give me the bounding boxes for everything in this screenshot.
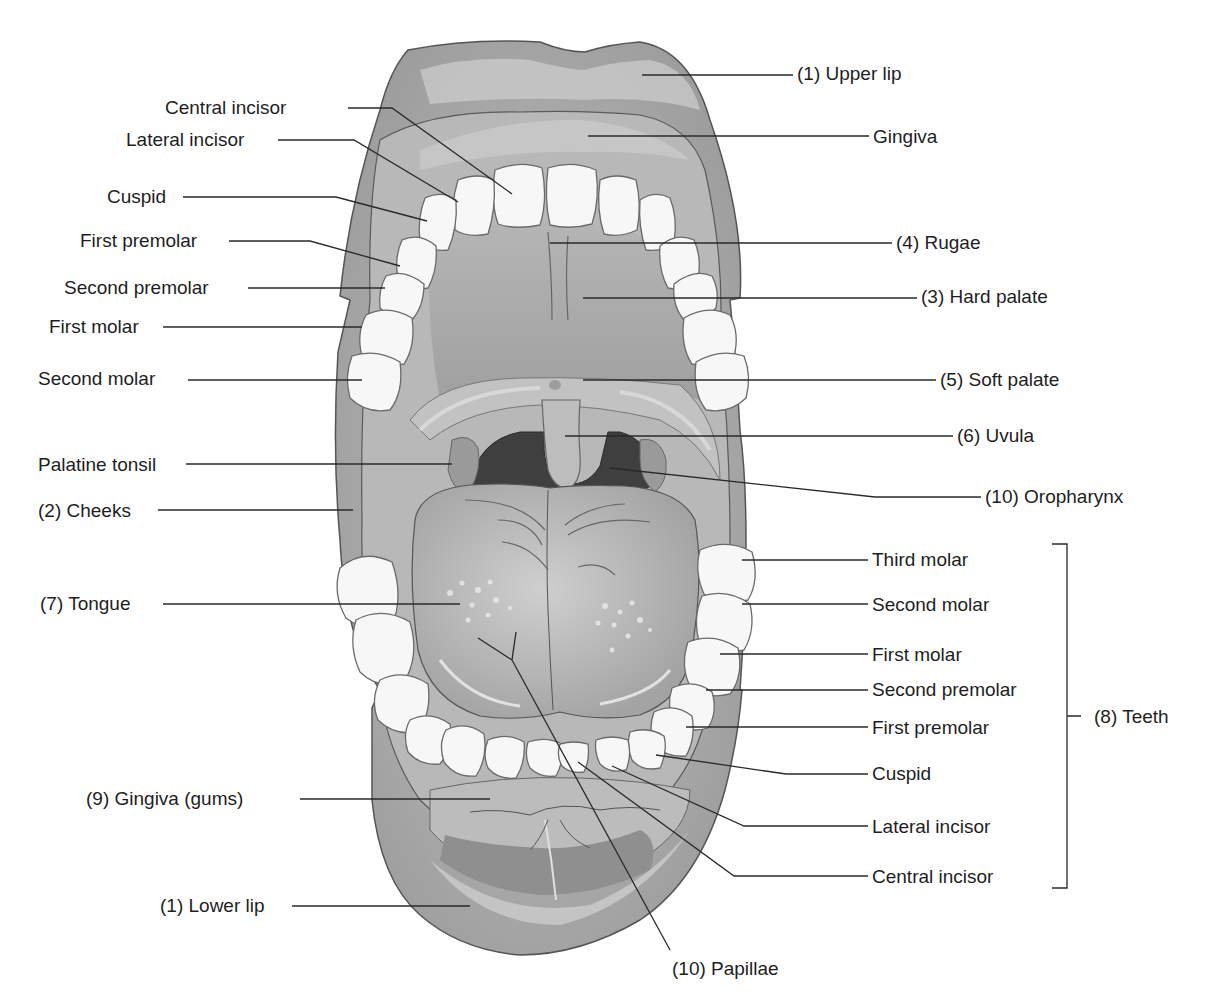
label-second-premolar-upper: Second premolar bbox=[64, 277, 209, 299]
label-palatine-tonsil: Palatine tonsil bbox=[38, 454, 156, 476]
upper-second-molar-left bbox=[347, 353, 400, 411]
label-second-molar-lower: Second molar bbox=[872, 594, 989, 616]
label-central-incisor-upper: Central incisor bbox=[165, 97, 286, 119]
label-hard-palate: (3) Hard palate bbox=[921, 286, 1048, 308]
label-gingiva-upper: Gingiva bbox=[873, 126, 937, 148]
bracket-path bbox=[1052, 544, 1081, 888]
teeth-group-label: (8) Teeth bbox=[1094, 706, 1169, 728]
label-third-molar-lower: Third molar bbox=[872, 549, 968, 571]
upper-second-molar-right bbox=[695, 353, 748, 411]
label-upper-lip: (1) Upper lip bbox=[797, 63, 902, 85]
label-first-molar-lower: First molar bbox=[872, 644, 962, 666]
label-lateral-incisor-lower: Lateral incisor bbox=[872, 816, 990, 838]
label-uvula: (6) Uvula bbox=[957, 425, 1034, 447]
label-gingiva-gums: (9) Gingiva (gums) bbox=[86, 788, 243, 810]
label-lateral-incisor-upper: Lateral incisor bbox=[126, 129, 244, 151]
lower-second-molar-left bbox=[353, 613, 414, 684]
label-second-molar-upper: Second molar bbox=[38, 368, 155, 390]
label-tongue: (7) Tongue bbox=[40, 593, 131, 615]
label-first-molar-upper: First molar bbox=[49, 316, 139, 338]
label-cheeks: (2) Cheeks bbox=[38, 500, 131, 522]
label-lower-lip: (1) Lower lip bbox=[160, 895, 265, 917]
label-papillae: (10) Papillae bbox=[672, 958, 779, 980]
tongue bbox=[412, 484, 699, 718]
label-central-incisor-lower: Central incisor bbox=[872, 866, 993, 888]
label-first-premolar-lower: First premolar bbox=[872, 717, 989, 739]
upper-central-incisor-left bbox=[493, 164, 544, 227]
upper-central-incisor-right bbox=[546, 164, 597, 227]
upper-lateral-incisor-right bbox=[599, 176, 640, 235]
label-oropharynx: (10) Oropharynx bbox=[985, 486, 1123, 508]
label-soft-palate: (5) Soft palate bbox=[940, 369, 1059, 391]
teeth-bracket bbox=[1052, 544, 1081, 888]
label-cuspid-lower: Cuspid bbox=[872, 763, 931, 785]
label-first-premolar-upper: First premolar bbox=[80, 230, 197, 252]
label-rugae: (4) Rugae bbox=[896, 232, 981, 254]
label-second-premolar-lower: Second premolar bbox=[872, 679, 1017, 701]
label-cuspid-upper: Cuspid bbox=[107, 186, 166, 208]
upper-lateral-incisor-left bbox=[453, 176, 494, 235]
